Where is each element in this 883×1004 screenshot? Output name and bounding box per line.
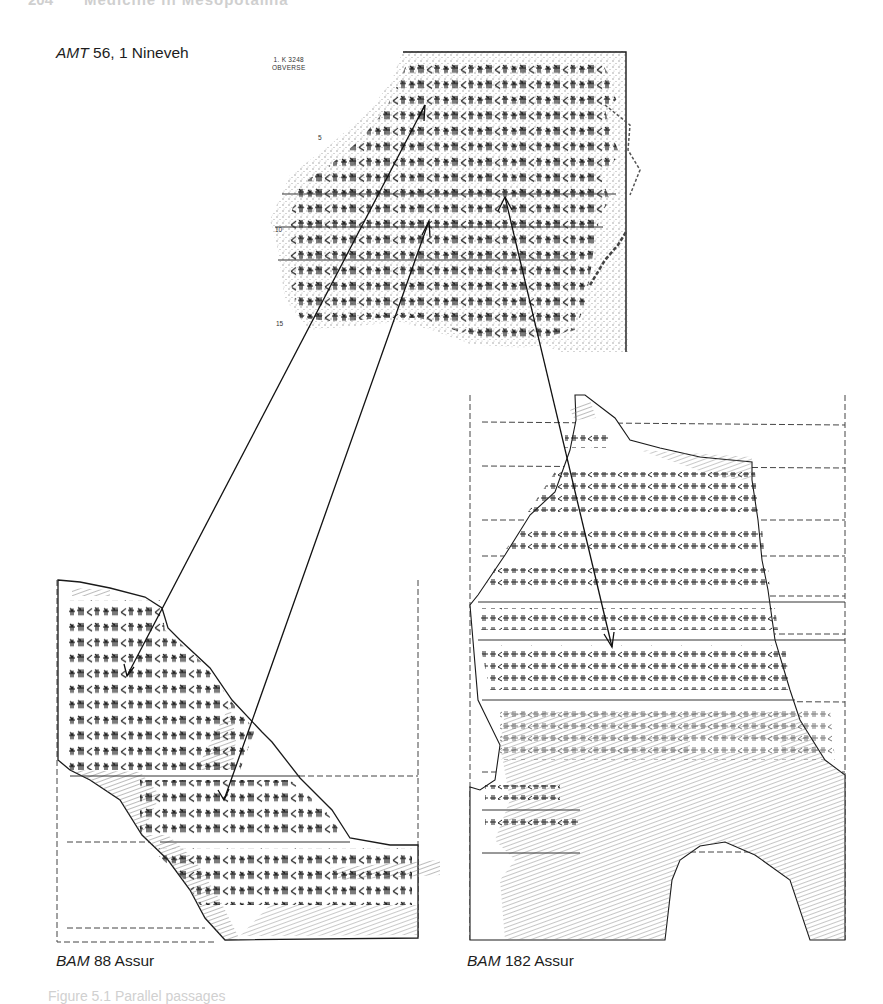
line-number-10: 10 <box>275 226 283 233</box>
line-number-5: 5 <box>318 134 322 141</box>
bottom-right-tablet-label-rest: 182 Assur <box>501 952 574 969</box>
figure-caption: Figure 5.1 Parallel passages <box>48 988 225 1004</box>
bottom-left-tablet-label-rest: 88 Assur <box>90 952 155 969</box>
top-tablet-drawing: 5 10 15 <box>270 50 640 352</box>
line-number-15: 15 <box>276 320 284 327</box>
arrow-amt-to-bam88-upper <box>124 105 425 676</box>
bottom-right-tablet-drawing <box>470 395 845 940</box>
bottom-right-tablet-label: BAM 182 Assur <box>467 952 574 970</box>
bottom-left-tablet-label: BAM 88 Assur <box>56 952 154 970</box>
bottom-left-tablet-label-series: BAM <box>56 952 90 969</box>
bottom-right-tablet-label-series: BAM <box>467 952 501 969</box>
bottom-left-tablet-drawing <box>57 580 440 942</box>
